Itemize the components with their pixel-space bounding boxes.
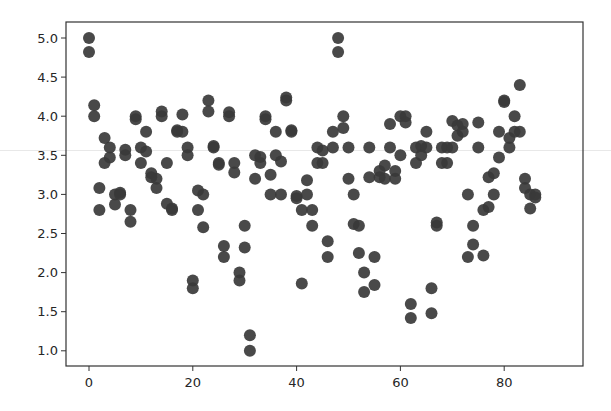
scatter-point: [176, 126, 188, 138]
scatter-point: [493, 126, 505, 138]
scatter-point: [493, 152, 505, 164]
scatter-point: [472, 142, 484, 154]
scatter-point: [488, 167, 500, 179]
scatter-point: [176, 109, 188, 121]
scatter-point: [498, 96, 510, 108]
scatter-point: [280, 95, 292, 107]
scatter-point: [317, 145, 329, 157]
scatter-point: [260, 113, 272, 125]
y-tick-label: 3.5: [37, 148, 58, 163]
scatter-point: [426, 282, 438, 294]
scatter-point: [394, 149, 406, 161]
scatter-point: [125, 204, 137, 216]
scatter-point: [369, 279, 381, 291]
scatter-point: [358, 267, 370, 279]
scatter-point: [275, 156, 287, 168]
scatter-point: [156, 110, 168, 122]
x-tick-label: 0: [85, 375, 93, 390]
scatter-point: [332, 32, 344, 44]
scatter-point: [446, 142, 458, 154]
scatter-point: [332, 46, 344, 58]
scatter-point: [384, 142, 396, 154]
scatter-point: [441, 157, 453, 169]
scatter-point: [202, 95, 214, 107]
scatter-point: [296, 204, 308, 216]
scatter-point: [420, 126, 432, 138]
scatter-point: [151, 182, 163, 194]
scatter-point: [213, 159, 225, 171]
scatter-point: [93, 204, 105, 216]
scatter-point: [405, 312, 417, 324]
scatter-point: [457, 126, 469, 138]
scatter-point: [306, 220, 318, 232]
scatter-point: [301, 174, 313, 186]
scatter-point: [337, 110, 349, 122]
scatter-point: [88, 110, 100, 122]
y-tick-label: 2.0: [37, 265, 58, 280]
scatter-point: [477, 249, 489, 261]
axes-frame: [66, 22, 583, 366]
scatter-point: [275, 188, 287, 200]
scatter-point: [467, 238, 479, 250]
scatter-point: [249, 173, 261, 185]
scatter-point: [130, 113, 142, 125]
scatter-point: [353, 247, 365, 259]
scatter-point: [358, 286, 370, 298]
x-tick-label: 40: [288, 375, 305, 390]
scatter-point: [182, 149, 194, 161]
scatter-point: [83, 32, 95, 44]
scatter-point: [88, 99, 100, 111]
scatter-point: [270, 126, 282, 138]
scatter-point: [322, 251, 334, 263]
scatter-point: [285, 126, 297, 138]
scatter-point: [254, 157, 266, 169]
scatter-point: [83, 46, 95, 58]
scatter-point: [488, 188, 500, 200]
x-tick-label: 80: [496, 375, 513, 390]
scatter-point: [301, 188, 313, 200]
scatter-point: [348, 188, 360, 200]
y-tick-label: 3.0: [37, 187, 58, 202]
scatter-point: [322, 235, 334, 247]
scatter-point: [467, 220, 479, 232]
scatter-point: [317, 157, 329, 169]
scatter-point: [379, 160, 391, 172]
scatter-point: [514, 126, 526, 138]
y-axis: 1.01.52.02.53.03.54.04.55.0: [37, 31, 66, 359]
scatter-point: [234, 274, 246, 286]
scatter-point: [239, 242, 251, 254]
scatter-point: [462, 251, 474, 263]
scatter-point: [327, 142, 339, 154]
y-tick-label: 4.5: [37, 70, 58, 85]
scatter-point: [524, 203, 536, 215]
y-tick-label: 4.0: [37, 109, 58, 124]
scatter-point: [125, 216, 137, 228]
scatter-point: [197, 188, 209, 200]
scatter-point: [353, 220, 365, 232]
scatter-point: [208, 142, 220, 154]
scatter-point: [239, 220, 251, 232]
scatter-point: [228, 167, 240, 179]
scatter-point: [462, 188, 474, 200]
data-points: [83, 32, 541, 357]
scatter-point: [426, 307, 438, 319]
scatter-point: [223, 110, 235, 122]
scatter-point: [363, 142, 375, 154]
scatter-point: [327, 126, 339, 138]
scatter-point: [514, 79, 526, 91]
y-tick-label: 1.5: [37, 304, 58, 319]
scatter-point: [483, 201, 495, 213]
scatter-point: [431, 220, 443, 232]
scatter-point: [244, 329, 256, 341]
scatter-point: [192, 204, 204, 216]
scatter-point: [218, 240, 230, 252]
scatter-point: [291, 192, 303, 204]
scatter-point: [337, 122, 349, 134]
scatter-point: [265, 188, 277, 200]
scatter-point: [343, 173, 355, 185]
scatter-point: [405, 298, 417, 310]
x-tick-label: 20: [185, 375, 202, 390]
scatter-point: [161, 157, 173, 169]
scatter-point: [119, 149, 131, 161]
scatter-point: [389, 173, 401, 185]
